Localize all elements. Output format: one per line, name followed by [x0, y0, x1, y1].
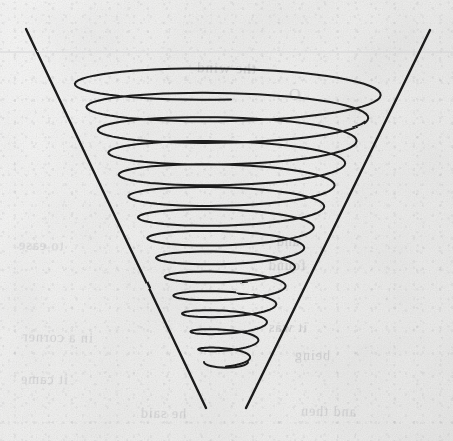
conical-spiral-drawing	[0, 0, 453, 441]
left-envelope-line	[26, 29, 206, 408]
spiral-turns-group	[75, 68, 381, 367]
ink-group	[26, 29, 430, 408]
right-envelope-line	[246, 30, 430, 408]
conical-helix-path	[75, 68, 381, 366]
paper-canvas: the windOto easeandfoundin a cornerit wa…	[0, 0, 453, 441]
